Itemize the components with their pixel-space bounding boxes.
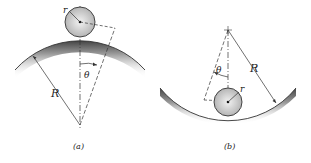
label-theta: θ xyxy=(84,70,90,80)
radius-R-arrowhead xyxy=(273,99,277,103)
caption-a: (a) xyxy=(73,142,84,151)
theta-arrowhead xyxy=(93,63,97,67)
label-R: R xyxy=(50,87,59,100)
label-theta: θ xyxy=(216,65,222,75)
figure-a: r R θ (a) xyxy=(15,5,145,151)
caption-b: (b) xyxy=(224,142,235,151)
diagram-canvas: r R θ (a) r R θ (b) xyxy=(0,0,311,163)
label-r: r xyxy=(240,84,245,94)
label-r: r xyxy=(63,5,68,15)
figure-b: r R θ (b) xyxy=(160,26,296,151)
label-R: R xyxy=(249,62,258,75)
